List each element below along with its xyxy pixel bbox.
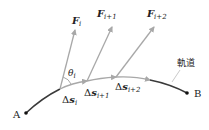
point-a-label: A [12, 109, 21, 120]
trajectory-diagram: A B 軌道 Fi Fi+1 Fi+2 θi Δsi Δsi+1 Δsi+2 [0, 0, 209, 130]
angle-label: θi [68, 68, 76, 80]
point-b-dot [185, 91, 189, 95]
force-arrow-i-plus-2 [116, 27, 154, 77]
displacement-arrow-i-plus-2 [116, 77, 150, 80]
displacement-arrow-i-plus-1 [87, 77, 116, 81]
displacement-arrow-i [60, 81, 87, 89]
trajectory-leader-line [172, 70, 180, 82]
force-arrow-i [60, 30, 75, 89]
trajectory-end-segment [150, 80, 187, 93]
force-label-i: Fi [71, 15, 81, 28]
force-label-i-plus-1: Fi+1 [96, 8, 117, 21]
force-label-i-plus-2: Fi+2 [146, 8, 167, 21]
force-arrow-i-plus-1 [87, 27, 112, 81]
displacement-label-i: Δsi [62, 94, 77, 107]
angle-arc [63, 77, 71, 84]
trajectory-start-segment [26, 89, 60, 113]
trajectory-label: 軌道 [177, 57, 195, 68]
displacement-label-i-plus-1: Δsi+1 [84, 87, 109, 100]
point-a-dot [24, 111, 28, 115]
displacement-label-i-plus-2: Δsi+2 [115, 81, 141, 94]
point-b-label: B [194, 88, 201, 99]
